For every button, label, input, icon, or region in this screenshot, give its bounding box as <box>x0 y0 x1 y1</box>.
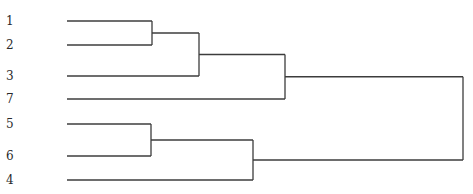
dendrogram-plot <box>0 0 473 194</box>
